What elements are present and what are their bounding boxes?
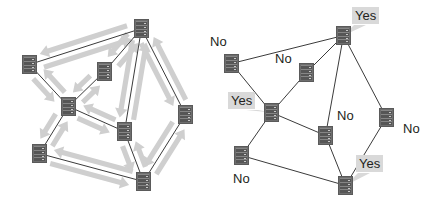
- diagram-canvas: YesNoNoYesNoNoNoYes: [0, 0, 436, 208]
- server-node-upper-left[interactable]: [224, 54, 239, 73]
- server-rack-unit: [63, 110, 74, 114]
- flooding-arrow: [77, 116, 110, 135]
- graph-edge: [344, 36, 387, 118]
- server-rack-unit: [24, 68, 35, 72]
- server-node-upper-left[interactable]: [22, 55, 37, 74]
- flooding-arrow: [144, 120, 175, 166]
- flooding-arrow: [73, 74, 92, 93]
- server-rack-unit: [99, 75, 110, 79]
- flooding-graph-panel: [0, 0, 200, 208]
- server-node-top[interactable]: [134, 19, 149, 38]
- server-node-bottom[interactable]: [136, 172, 151, 191]
- server-node-right[interactable]: [379, 108, 394, 127]
- flooding-arrow: [154, 129, 185, 175]
- server-node-top[interactable]: [336, 26, 351, 45]
- node-decision-label: No: [334, 107, 357, 124]
- node-decision-label: No: [272, 50, 295, 67]
- server-rack-unit: [381, 121, 392, 125]
- server-rack-unit: [320, 139, 331, 143]
- decision-graph-panel: YesNoNoYesNoNoNoYes: [200, 0, 436, 208]
- server-rack-unit: [236, 159, 247, 163]
- server-rack-unit: [266, 116, 277, 120]
- server-node-center[interactable]: [264, 103, 279, 122]
- node-decision-label: Yes: [228, 92, 255, 109]
- server-node-bottom[interactable]: [338, 176, 353, 195]
- node-decision-label: No: [230, 170, 253, 187]
- server-node-lower-left[interactable]: [32, 144, 47, 163]
- flooding-arrow: [83, 103, 116, 122]
- server-node-center[interactable]: [61, 97, 76, 116]
- flooding-arrow: [152, 37, 188, 101]
- flooding-arrow: [133, 141, 148, 168]
- graph-edge: [242, 156, 346, 186]
- server-node-mid-right[interactable]: [318, 126, 333, 145]
- server-rack-unit: [338, 39, 349, 43]
- server-rack-unit: [226, 67, 237, 71]
- node-decision-label: Yes: [356, 155, 383, 172]
- flooding-graph-edges: [0, 0, 200, 208]
- server-rack-unit: [119, 135, 130, 139]
- graph-edge: [142, 29, 186, 115]
- flooding-arrow: [81, 86, 100, 105]
- server-rack-unit: [301, 76, 312, 80]
- node-decision-label: No: [400, 120, 423, 137]
- server-rack-unit: [34, 157, 45, 161]
- node-decision-label: Yes: [352, 7, 379, 24]
- server-rack-unit: [136, 32, 147, 36]
- server-node-mid-right[interactable]: [117, 122, 132, 141]
- server-rack-unit: [340, 189, 351, 193]
- server-node-lower-left[interactable]: [234, 146, 249, 165]
- node-decision-label: No: [207, 33, 230, 50]
- server-node-right[interactable]: [178, 105, 193, 124]
- server-rack-unit: [138, 185, 149, 189]
- flooding-arrow: [50, 121, 68, 147]
- server-node-upper-mid[interactable]: [299, 63, 314, 82]
- server-rack-unit: [180, 118, 191, 122]
- flooding-arrow: [40, 113, 58, 139]
- server-node-upper-mid[interactable]: [97, 62, 112, 81]
